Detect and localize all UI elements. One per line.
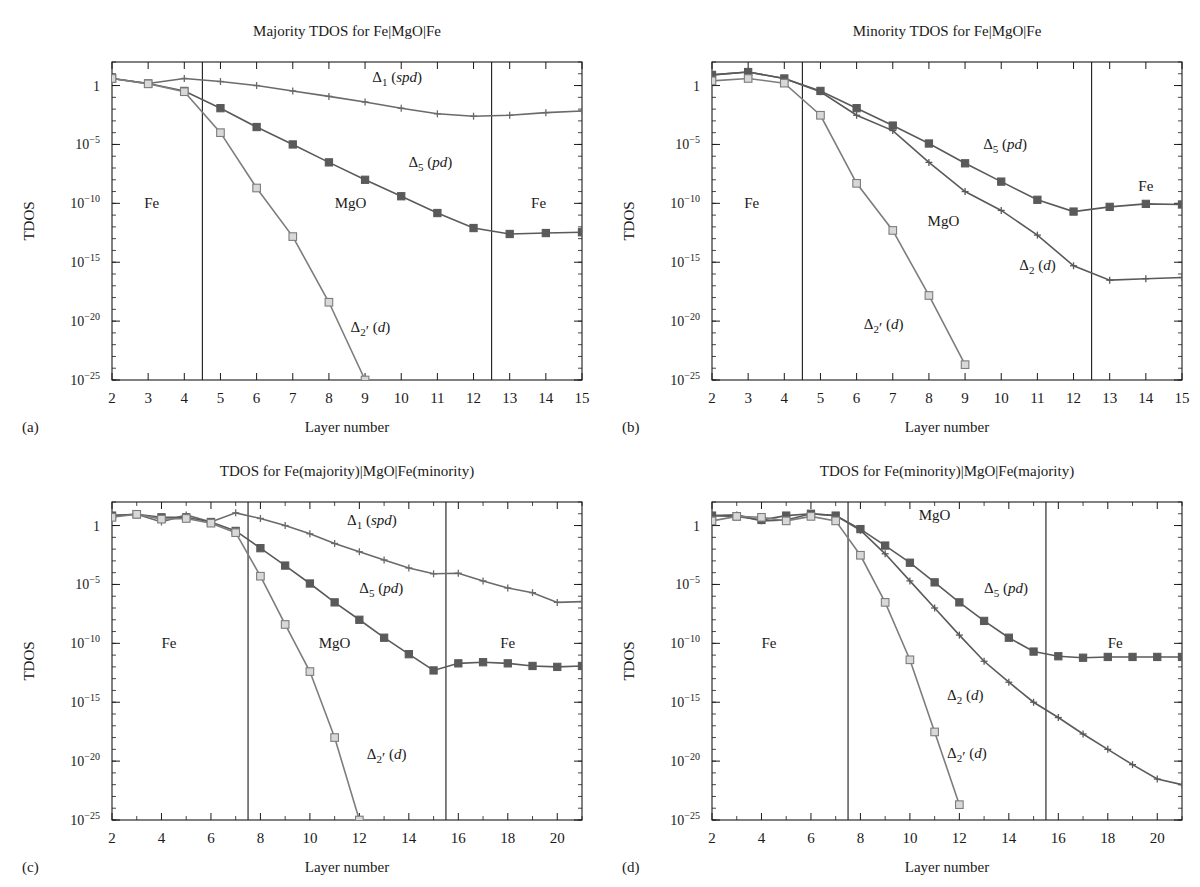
data-marker [817, 111, 825, 119]
data-marker [158, 515, 166, 523]
x-tick-label: 20 [1150, 830, 1165, 846]
y-tick-label: 10−10 [670, 633, 700, 651]
series-label: Δ5 (pd) [408, 154, 452, 173]
region-label-left: Fe [161, 635, 176, 651]
data-marker [1129, 653, 1136, 660]
x-tick-label: 14 [1138, 390, 1154, 406]
data-marker [1106, 203, 1113, 210]
x-tick-label: 10 [302, 830, 317, 846]
data-marker [807, 513, 815, 521]
series-group [108, 75, 585, 384]
series-label: Δ2 (d) [947, 687, 983, 706]
x-axis: 2468101214161820 [108, 502, 582, 846]
data-marker [504, 584, 511, 591]
data-marker [325, 93, 332, 100]
y-tick-label: 10−15 [70, 692, 100, 710]
x-tick-label: 2 [108, 390, 116, 406]
data-marker [578, 229, 585, 236]
data-marker [1079, 654, 1086, 661]
data-marker [356, 616, 363, 623]
x-tick-label: 8 [925, 390, 933, 406]
x-tick-label: 4 [158, 830, 166, 846]
y-tick-label: 10−20 [70, 311, 100, 329]
data-marker [733, 513, 741, 521]
data-marker [1104, 653, 1111, 660]
data-marker [906, 656, 914, 664]
x-tick-label: 12 [352, 830, 367, 846]
data-marker [1179, 274, 1186, 281]
series-label: Δ2 (d) [1019, 257, 1055, 276]
data-marker [1178, 201, 1185, 208]
data-marker [529, 662, 536, 669]
data-marker [470, 113, 477, 120]
data-marker [405, 651, 412, 658]
x-axis: 2468101214161820 [708, 502, 1182, 846]
y-tick-label: 1 [693, 79, 700, 94]
region-label-right: Fe [500, 635, 515, 651]
series-label: Δ2′ (d) [947, 745, 987, 765]
panel-id: (b) [622, 419, 640, 436]
panel-d: TDOS for Fe(minority)|MgO|Fe(majority)24… [600, 440, 1200, 887]
series-line [112, 514, 359, 820]
y-axis: 110−510−1010−1510−2010−25 [70, 62, 582, 388]
data-marker [455, 570, 462, 577]
data-marker [144, 80, 152, 88]
data-marker [257, 545, 264, 552]
data-marker [361, 376, 369, 384]
x-tick-label: 13 [1102, 390, 1117, 406]
data-marker [306, 580, 313, 587]
data-marker [542, 229, 549, 236]
series-label: Δ2′ (d) [351, 319, 391, 339]
data-marker [506, 112, 513, 119]
data-marker [455, 660, 462, 667]
data-marker [232, 529, 240, 537]
x-tick-label: 5 [817, 390, 825, 406]
x-tick-label: 18 [500, 830, 515, 846]
data-marker [356, 816, 364, 824]
tdos-figure: Majority TDOS for Fe|MgO|Fe2345678910111… [0, 0, 1200, 887]
data-marker [853, 180, 861, 188]
data-marker [306, 668, 314, 676]
data-marker [1005, 634, 1012, 641]
y-tick-label: 10−10 [70, 633, 100, 651]
data-marker [430, 667, 437, 674]
data-marker [217, 105, 224, 112]
data-marker [1154, 653, 1161, 660]
data-marker [405, 564, 412, 571]
x-tick-label: 4 [181, 390, 189, 406]
panel-a: Majority TDOS for Fe|MgO|Fe2345678910111… [0, 0, 600, 440]
data-marker [381, 634, 388, 641]
data-marker [1070, 208, 1077, 215]
data-marker [931, 728, 939, 736]
series-group [108, 509, 585, 823]
data-marker [506, 230, 513, 237]
x-axis: 23456789101112131415 [708, 62, 1189, 406]
x-tick-label: 3 [744, 390, 752, 406]
x-tick-label: 4 [781, 390, 789, 406]
x-tick-label: 14 [1001, 830, 1017, 846]
data-marker [306, 530, 313, 537]
data-marker [480, 577, 487, 584]
data-marker [232, 509, 239, 516]
data-marker [361, 176, 368, 183]
data-marker [782, 517, 790, 525]
y-tick-label: 10−5 [75, 134, 100, 152]
data-marker [998, 178, 1005, 185]
series-line [712, 72, 1182, 212]
y-tick-label: 10−10 [70, 193, 100, 211]
data-marker [925, 292, 933, 300]
x-tick-label: 6 [853, 390, 861, 406]
data-marker [554, 599, 561, 606]
data-marker [181, 88, 189, 96]
x-tick-label: 15 [575, 390, 590, 406]
data-marker [931, 579, 938, 586]
panel-c: TDOS for Fe(majority)|MgO|Fe(minority)24… [0, 440, 600, 887]
x-tick-label: 7 [289, 390, 297, 406]
y-tick-label: 10−5 [675, 574, 700, 592]
data-marker [289, 141, 296, 148]
x-tick-label: 2 [708, 830, 716, 846]
series-group [708, 510, 1185, 808]
data-marker [217, 78, 224, 85]
data-marker [744, 75, 752, 83]
data-marker [381, 556, 388, 563]
